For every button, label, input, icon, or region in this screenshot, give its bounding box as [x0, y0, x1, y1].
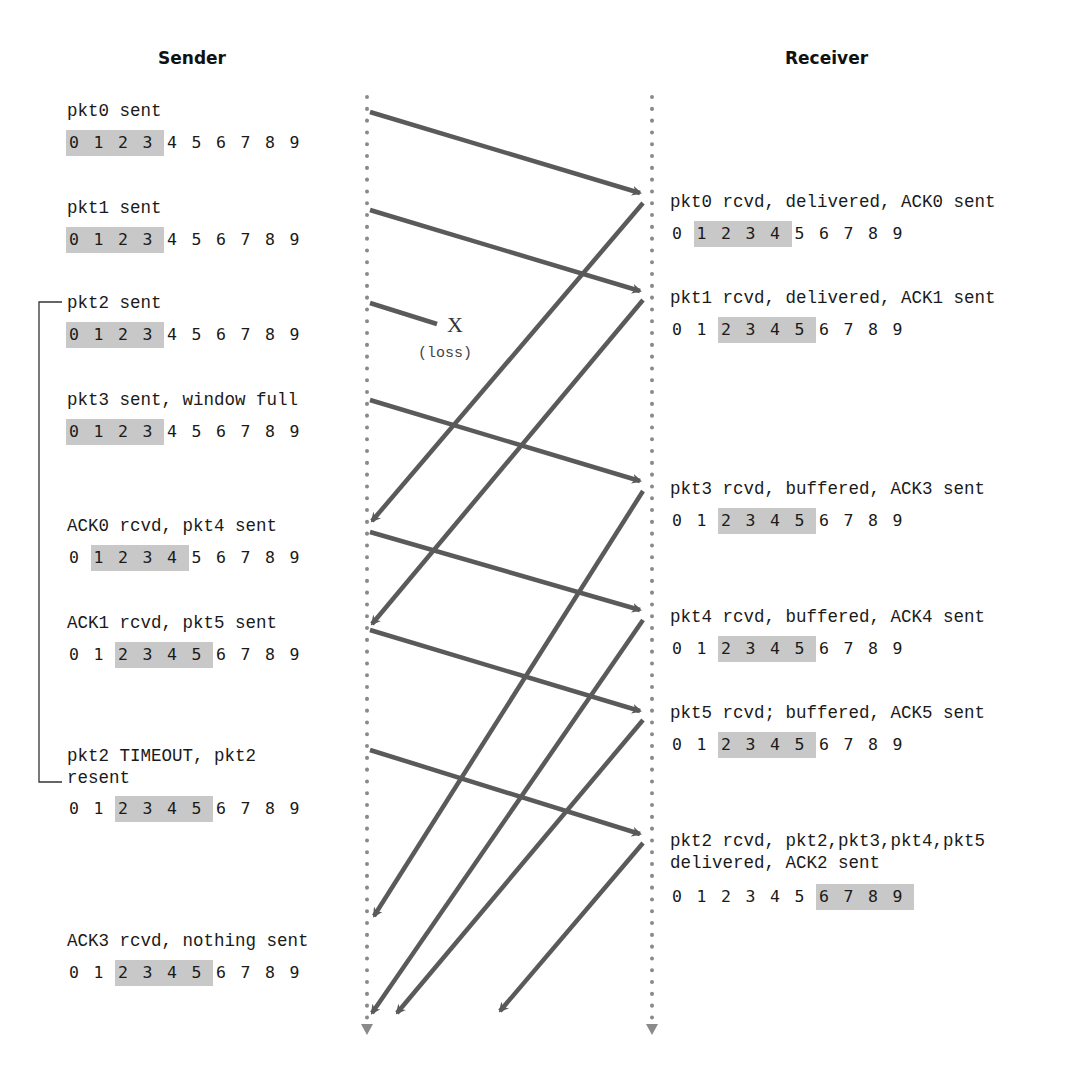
sequence-number: 5 — [792, 508, 817, 534]
arrow-pkt2-lost — [370, 303, 437, 324]
sequence-number: 7 — [238, 960, 263, 986]
sequence-number: 9 — [890, 884, 915, 910]
sequence-number: 1 — [694, 884, 719, 910]
loss-label: (loss) — [418, 345, 472, 362]
sequence-number: 4 — [767, 732, 792, 758]
sequence-number: 7 — [238, 545, 263, 571]
sequence-number: 1 — [91, 796, 116, 822]
sequence-window: 0123456789 — [66, 227, 311, 253]
sequence-number: 8 — [262, 545, 287, 571]
sequence-number: 3 — [743, 317, 768, 343]
sequence-number: 9 — [287, 130, 312, 156]
sequence-number: 9 — [890, 317, 915, 343]
sequence-number: 9 — [287, 642, 312, 668]
sequence-number: 4 — [164, 960, 189, 986]
sequence-number: 0 — [669, 732, 694, 758]
sequence-number: 7 — [841, 221, 866, 247]
timeout-bracket — [39, 302, 62, 782]
sequence-number: 6 — [816, 317, 841, 343]
sequence-number: 8 — [865, 317, 890, 343]
sequence-window: 0123456789 — [66, 796, 311, 822]
sequence-number: 7 — [238, 796, 263, 822]
sequence-number: 7 — [238, 227, 263, 253]
sender-timeline — [361, 97, 373, 1035]
sequence-number: 8 — [262, 322, 287, 348]
sequence-number: 9 — [287, 796, 312, 822]
event-label: pkt0 sent — [67, 100, 162, 122]
sequence-number: 3 — [743, 221, 768, 247]
sequence-number: 1 — [91, 960, 116, 986]
sequence-number: 0 — [669, 317, 694, 343]
sequence-number: 8 — [262, 227, 287, 253]
sequence-number: 5 — [189, 130, 214, 156]
sequence-number: 1 — [91, 130, 116, 156]
sequence-number: 2 — [718, 732, 743, 758]
event-label: pkt2 rcvd, pkt2,pkt3,pkt4,pkt5 delivered… — [670, 830, 985, 874]
sequence-number: 1 — [694, 636, 719, 662]
sequence-number: 6 — [213, 545, 238, 571]
sequence-number: 5 — [792, 636, 817, 662]
sequence-number: 4 — [767, 636, 792, 662]
receiver-timeline-arrowhead-icon — [646, 1024, 658, 1035]
sequence-number: 4 — [164, 130, 189, 156]
sequence-number: 4 — [164, 227, 189, 253]
sequence-window: 0123456789 — [66, 419, 311, 445]
sequence-number: 5 — [189, 227, 214, 253]
sequence-number: 6 — [213, 796, 238, 822]
sequence-number: 0 — [669, 636, 694, 662]
arrow-pkt3 — [370, 400, 640, 481]
event-label: ACK1 rcvd, pkt5 sent — [67, 612, 277, 634]
arrow-ack3 — [374, 491, 643, 916]
sequence-number: 9 — [287, 419, 312, 445]
sequence-number: 7 — [238, 130, 263, 156]
sequence-window: 0123456789 — [669, 221, 914, 247]
sequence-number: 9 — [287, 545, 312, 571]
sequence-number: 5 — [792, 221, 817, 247]
sequence-number: 3 — [743, 508, 768, 534]
sequence-number: 3 — [140, 322, 165, 348]
sequence-number: 5 — [189, 960, 214, 986]
sequence-number: 5 — [189, 642, 214, 668]
arrow-pkt1 — [370, 210, 640, 291]
sequence-number: 0 — [66, 545, 91, 571]
sequence-number: 4 — [767, 884, 792, 910]
event-label: pkt3 sent, window full — [67, 389, 298, 411]
sequence-number: 9 — [287, 322, 312, 348]
sequence-number: 2 — [115, 796, 140, 822]
sequence-number: 2 — [718, 636, 743, 662]
sequence-number: 0 — [66, 322, 91, 348]
event-label: pkt1 rcvd, delivered, ACK1 sent — [670, 287, 996, 309]
sequence-number: 1 — [91, 227, 116, 253]
event-label: pkt3 rcvd, buffered, ACK3 sent — [670, 478, 985, 500]
receiver-heading: Receiver — [785, 48, 868, 68]
arrow-ack5 — [397, 720, 643, 1013]
sequence-number: 8 — [865, 508, 890, 534]
arrow-pkt4 — [370, 532, 640, 610]
sequence-number: 9 — [890, 508, 915, 534]
sequence-number: 5 — [189, 419, 214, 445]
sequence-number: 2 — [718, 508, 743, 534]
sequence-number: 3 — [140, 130, 165, 156]
sequence-number: 7 — [841, 636, 866, 662]
sequence-number: 1 — [694, 732, 719, 758]
sequence-number: 5 — [792, 884, 817, 910]
sequence-number: 0 — [66, 227, 91, 253]
sequence-number: 9 — [890, 636, 915, 662]
sequence-number: 6 — [816, 884, 841, 910]
sequence-number: 3 — [140, 960, 165, 986]
sequence-number: 7 — [841, 884, 866, 910]
sequence-number: 4 — [164, 322, 189, 348]
sequence-number: 0 — [669, 221, 694, 247]
sequence-number: 4 — [164, 419, 189, 445]
sequence-number: 7 — [238, 419, 263, 445]
sequence-number: 2 — [115, 960, 140, 986]
sequence-window: 0123456789 — [669, 508, 914, 534]
sequence-number: 1 — [694, 317, 719, 343]
arrow-pkt0 — [370, 112, 640, 193]
sequence-window: 0123456789 — [66, 960, 311, 986]
sender-heading: Sender — [158, 48, 226, 68]
event-label: ACK3 rcvd, nothing sent — [67, 930, 309, 952]
arrow-ack4 — [372, 620, 643, 1013]
sequence-window: 0123456789 — [669, 636, 914, 662]
sequence-number: 2 — [115, 227, 140, 253]
